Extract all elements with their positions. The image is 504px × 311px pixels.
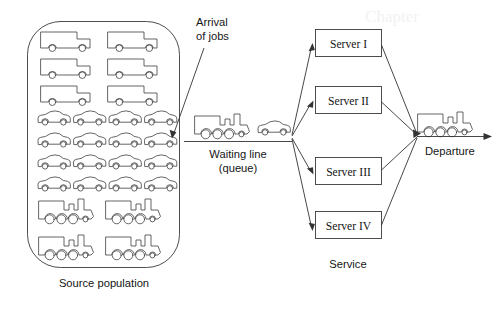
flow-from-server-1	[382, 45, 418, 134]
car-row	[38, 111, 177, 125]
truck-row	[41, 86, 157, 106]
server-box-1[interactable]: Server I	[316, 30, 382, 57]
flow-to-server-4	[292, 139, 311, 225]
queue-to-servers-flows	[292, 43, 315, 231]
departure-group: Departure	[417, 112, 492, 157]
flow-to-server-2-arrowhead	[307, 101, 314, 108]
departure-label: Departure	[425, 145, 475, 157]
flow-from-server-4	[382, 138, 418, 225]
car-row	[38, 133, 177, 147]
bleed-through-text: Chapter	[365, 7, 419, 26]
arrival-arrow-line	[174, 48, 204, 133]
waiting-line-group: Waiting line (queue)	[184, 114, 292, 174]
departure-locomotive-icon	[418, 112, 473, 137]
service-label: Service	[329, 258, 366, 270]
locomotive-row	[39, 235, 161, 260]
waiting-line-label-line1: Waiting line	[209, 148, 266, 160]
source-population-label: Source population	[59, 277, 149, 289]
server-box-2[interactable]: Server II	[316, 87, 382, 114]
queue-locomotive-icon	[195, 114, 250, 139]
flow-from-server-3	[382, 137, 418, 170]
car-row	[38, 155, 177, 169]
flow-to-server-4-arrowhead	[309, 223, 315, 231]
server-box-3[interactable]: Server III	[316, 158, 382, 185]
arrival-label-line2: of jobs	[196, 30, 229, 42]
flow-to-server-3	[292, 138, 310, 170]
flow-to-server-1-arrowhead	[309, 43, 315, 51]
server-box-4[interactable]: Server IV	[316, 212, 382, 239]
server-3-label: Server III	[326, 166, 371, 179]
servers-to-departure-flows	[382, 45, 422, 225]
flow-to-server-3-arrowhead	[307, 167, 314, 174]
arrival-label-line1: Arrival	[196, 16, 228, 28]
queue-car-icon	[258, 121, 290, 135]
service-group: Server I Server II Server III Server IV …	[316, 30, 382, 271]
truck-row	[41, 59, 157, 79]
server-1-label: Server I	[330, 38, 367, 51]
flow-from-server-2	[382, 102, 418, 135]
server-4-label: Server IV	[326, 220, 372, 233]
flow-to-server-1	[292, 49, 311, 135]
locomotive-row	[39, 199, 161, 224]
waiting-line-label-line2: (queue)	[219, 162, 258, 174]
queueing-diagram: Chapter	[0, 0, 504, 311]
truck-row	[41, 32, 157, 52]
server-2-label: Server II	[328, 95, 369, 108]
car-row	[38, 177, 177, 191]
flow-to-server-2	[292, 105, 310, 136]
source-population-group: Source population	[28, 22, 180, 290]
departure-arrow-head	[484, 133, 493, 140]
